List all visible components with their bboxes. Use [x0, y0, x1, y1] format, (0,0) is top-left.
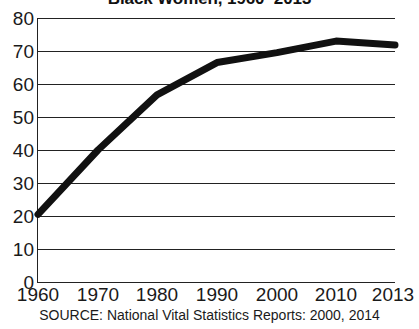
gridline-70	[38, 51, 395, 52]
source-note: SOURCE: National Vital Statistics Report…	[0, 307, 419, 324]
y-axis-tick-labels: 80 70 60 50 40 30 20 10 0	[0, 0, 34, 300]
y-tick-label-50: 50	[0, 108, 34, 127]
chart-title: Black Women, 1960–2013	[0, 0, 419, 8]
x-tick-label-1960: 1960	[17, 285, 59, 305]
y-tick-label-70: 70	[0, 42, 34, 61]
chart-figure: Black Women, 1960–2013 80 70 60 50 40 30…	[0, 0, 419, 329]
x-tick-label-2010: 2010	[315, 285, 357, 305]
x-tick-label-1970: 1970	[77, 285, 119, 305]
gridline-60	[38, 84, 395, 85]
x-tick-label-1980: 1980	[136, 285, 178, 305]
x-axis-tick-labels: 1960 1970 1980 1990 2000 2010 2013	[0, 285, 419, 307]
x-axis-baseline	[38, 282, 395, 283]
x-tick-label-2013: 2013	[372, 285, 414, 305]
gridline-30	[38, 183, 395, 184]
y-tick-label-20: 20	[0, 207, 34, 226]
x-tick-label-2000: 2000	[256, 285, 298, 305]
y-tick-label-60: 60	[0, 75, 34, 94]
gridline-20	[38, 216, 395, 217]
gridline-40	[38, 150, 395, 151]
x-tick-label-1990: 1990	[196, 285, 238, 305]
plot-area	[38, 18, 395, 282]
y-tick-label-10: 10	[0, 240, 34, 259]
y-tick-label-80: 80	[0, 9, 34, 28]
gridline-50	[38, 117, 395, 118]
y-tick-label-40: 40	[0, 141, 34, 160]
gridline-80	[38, 18, 395, 19]
gridline-10	[38, 249, 395, 250]
y-tick-label-30: 30	[0, 174, 34, 193]
